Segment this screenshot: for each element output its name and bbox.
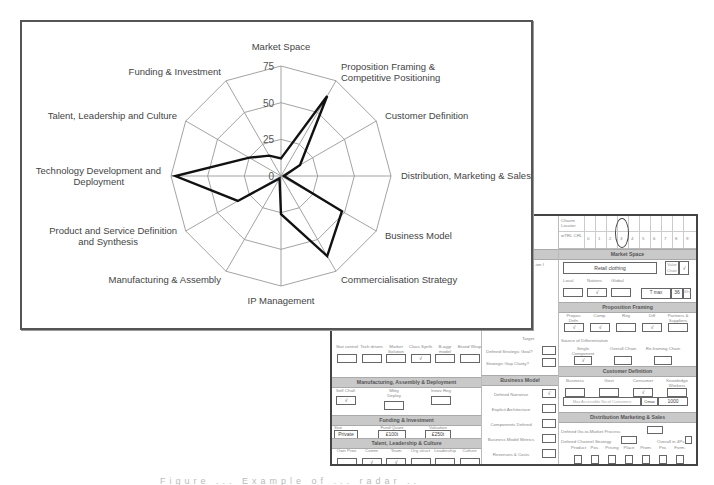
four-ps-field[interactable] (676, 455, 684, 464)
proposition-label: Reg (613, 313, 639, 323)
form-right-column: Chasm Locator wTRL CRL 0123456789 Market… (559, 216, 696, 464)
time-field[interactable]: 36 (671, 288, 683, 299)
technology-field[interactable] (386, 354, 406, 363)
differentiation-field[interactable] (654, 356, 672, 365)
market-scope-label: Nations (587, 278, 611, 288)
gtm-field[interactable] (647, 426, 663, 434)
proposition-label: Diff (639, 313, 665, 323)
trl-number: 6 (653, 236, 655, 241)
talent-label: Culture (458, 448, 482, 458)
funding-item: Valuation£250t (423, 425, 453, 439)
four-ps-field[interactable] (574, 455, 582, 464)
four-ps-item: Pricing (605, 445, 619, 464)
market-scope-field[interactable]: √ (587, 288, 607, 297)
differentiation-item: Re-framing Chain (645, 346, 681, 365)
technology-field[interactable] (460, 354, 480, 363)
manufacturing-item: Mktg Deploy (382, 388, 406, 410)
talent-field[interactable] (460, 458, 480, 466)
talent-label: Own Prior. (335, 448, 359, 458)
manufacturing-header: Manufacturing, Assembly & Deployment (332, 377, 481, 388)
talent-label: Org struct (409, 448, 433, 458)
category-label: Commercialisation Strategy (341, 274, 457, 285)
business-model-field[interactable] (542, 404, 556, 413)
channel-field[interactable] (621, 436, 637, 444)
four-ps-field[interactable] (608, 455, 616, 464)
differentiation-field[interactable] (614, 356, 632, 365)
four-ps-label: Product (571, 445, 585, 455)
business-model-field[interactable]: √ (542, 389, 556, 398)
customer-item: Consumer√ (629, 378, 657, 397)
business-model-field[interactable] (542, 434, 556, 443)
trl-number: 5 (642, 236, 644, 241)
proposition-field[interactable] (668, 323, 688, 332)
tick-label: 50 (263, 98, 275, 109)
manufacturing-field[interactable]: √ (336, 396, 356, 405)
manufacturing-field[interactable] (431, 396, 451, 405)
customer-item: Business (561, 378, 589, 397)
technology-field[interactable]: √ (411, 354, 431, 363)
four-ps-item: Prom. (639, 445, 653, 464)
technology-field[interactable] (435, 354, 455, 363)
max-customers-label: Max Accessible No of Customers (563, 397, 641, 406)
business-model-field[interactable] (542, 419, 556, 428)
business-model-label: Revenues & Costs (486, 452, 536, 457)
talent-field[interactable]: √ (386, 458, 406, 466)
category-label: Distribution, Marketing & Sales (401, 170, 531, 181)
four-ps-field[interactable] (659, 455, 667, 464)
strategy-q1-field[interactable] (542, 346, 556, 355)
differentiation-item: Single Component√ (565, 346, 601, 365)
customer-field[interactable] (599, 388, 619, 397)
strategy-q2-field[interactable] (542, 358, 556, 367)
talent-field[interactable] (411, 458, 431, 466)
customer-field[interactable] (667, 388, 687, 397)
four-ps-field[interactable] (642, 455, 650, 464)
talent-field[interactable] (337, 458, 357, 466)
talent-field[interactable]: √ (362, 458, 382, 466)
business-model-header: Business Model (482, 375, 558, 386)
four-ps-field[interactable] (625, 455, 633, 464)
four-ps-field[interactable] (591, 455, 599, 464)
customer-field[interactable]: √ (633, 388, 653, 397)
market-scope-field[interactable] (611, 288, 631, 297)
talent-item: Org struct (409, 448, 433, 466)
category-label: Funding & Investment (129, 66, 222, 77)
technology-field[interactable] (362, 354, 382, 363)
sector-field[interactable]: Retail clothing (563, 262, 657, 274)
category-label: Customer Definition (385, 110, 468, 121)
manufacturing-field[interactable] (384, 401, 404, 410)
business-model-row: Components Defined (486, 422, 556, 427)
proposition-field[interactable]: √ (564, 323, 584, 332)
differentiation-item: Overall Chain (605, 346, 641, 365)
customer-field[interactable] (565, 388, 585, 397)
time-label: T max (641, 288, 671, 299)
talent-field[interactable] (435, 458, 455, 466)
trl-number: 4 (631, 236, 633, 241)
talent-item: Team√ (384, 448, 408, 466)
value-chain-field[interactable]: √ (679, 261, 689, 275)
category-label: Market Space (252, 41, 311, 52)
talent-section: Talent, Leadership & Culture Own Prior.C… (332, 438, 481, 449)
talent-item: Own Prior. (335, 448, 359, 466)
technology-field[interactable] (337, 354, 357, 363)
proposition-field[interactable]: √ (642, 323, 662, 332)
four-ps-item: Place (622, 445, 636, 464)
four-ps-field[interactable] (685, 436, 692, 444)
proposition-field[interactable] (616, 323, 636, 332)
strategy-q2: Strategic Gap Clarity? (486, 361, 556, 366)
business-model-field[interactable] (542, 464, 556, 466)
channel-label: Defined Channel Strategy (561, 439, 611, 444)
proposition-item: Reg (613, 313, 639, 332)
tick-label: 75 (263, 61, 275, 72)
chasm-locator-grid: Chasm Locator wTRL CRL 0123456789 (559, 216, 696, 249)
proposition-field[interactable]: √ (590, 323, 610, 332)
differentiation-field[interactable]: √ (574, 356, 592, 365)
cmax-label: Cmax (641, 397, 658, 406)
business-model-field[interactable] (542, 449, 556, 458)
market-scope-label: Local (563, 278, 587, 288)
category-label: Product and Service Definitionand Synthe… (49, 225, 177, 247)
customer-label: Govt (595, 378, 623, 388)
category-label: Talent, Leadership and Culture (48, 110, 177, 121)
cmax-field[interactable]: 1000 (658, 397, 688, 406)
market-scope-field[interactable] (563, 288, 583, 297)
trl-number: 7 (664, 236, 666, 241)
